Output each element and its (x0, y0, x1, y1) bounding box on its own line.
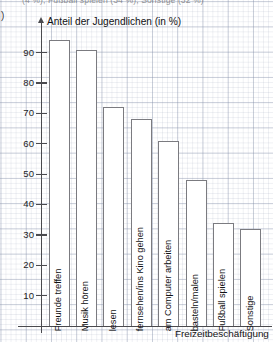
bar-category-label: Fußball spielen (218, 269, 227, 331)
bar (103, 107, 124, 326)
y-axis-tick (36, 174, 47, 175)
y-axis-tick-label: 50 (8, 169, 34, 179)
bar-category-label: Musik hören (81, 281, 90, 331)
bar-category-label: Sonstige (246, 295, 255, 331)
y-axis-tick-label: 80 (8, 78, 34, 88)
y-axis-arrow-icon (38, 17, 44, 23)
y-axis-title: Anteil der Jugendlichen (in %) (47, 17, 181, 27)
y-axis-tick (36, 143, 47, 144)
y-axis-tick-label: 40 (8, 199, 34, 209)
y-axis-tick (36, 113, 47, 114)
bar-category-label: lesen (109, 309, 118, 331)
y-axis-tick (36, 82, 47, 83)
y-axis-tick-label: 70 (8, 108, 34, 118)
y-axis-tick (36, 265, 47, 266)
y-axis-tick-label: 90 (8, 48, 34, 58)
y-axis-tick-label: 30 (8, 230, 34, 240)
bar-category-label: am Computer arbeiten (163, 239, 172, 331)
bar-chart: Anteil der Jugendlichen (in %) Freizeitb… (0, 0, 273, 342)
bar-category-label: Freunde treffen (54, 268, 63, 331)
y-axis-tick-label: 20 (8, 260, 34, 270)
bar-category-label: basteln/malen (191, 274, 200, 331)
y-axis-line (41, 22, 42, 333)
y-axis-tick (36, 52, 47, 53)
bar-category-label: fernsehen/ins Kino gehen (136, 227, 145, 331)
y-axis-tick-label: 60 (8, 139, 34, 149)
y-axis-tick (36, 234, 47, 235)
y-axis-tick (36, 295, 47, 296)
y-axis-tick (36, 204, 47, 205)
y-axis-tick-label: 10 (8, 291, 34, 301)
